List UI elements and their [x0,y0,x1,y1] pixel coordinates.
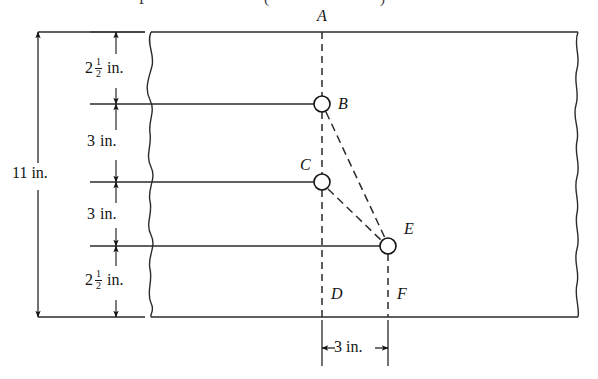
figure-canvas: P ( ) [0,0,598,379]
horizontal-dimension-label: 3 in. [334,339,362,355]
dimension-unit-seg-1: in. [107,60,123,76]
dimension-whole-seg-1: 2 [85,60,93,76]
point-label-e: E [404,221,414,237]
point-label-d: D [331,286,343,302]
plate-outline [147,32,578,317]
dimension-fraction-seg-4: 1 2 [95,269,102,291]
members [326,112,385,241]
dimension-label-seg-3: 3 in. [87,206,116,222]
fraction-denominator-seg-1: 2 [95,69,102,79]
member-b-e [326,112,385,238]
dimension-unit-seg-3: in. [100,206,116,222]
dimension-unit-seg-2: in. [100,133,116,149]
right-break-line [575,32,579,317]
pin-circle-b [314,96,330,112]
fraction-numerator-seg-1: 1 [95,57,102,67]
fraction-denominator-seg-4: 2 [95,281,102,291]
dimension-fraction-seg-1: 1 2 [95,57,102,79]
dimension-whole-seg-2: 3 [87,133,95,149]
point-label-b: B [338,96,348,112]
dimension-unit-seg-4: in. [107,272,123,288]
dimension-label-seg-4: 2 1 2 in. [85,269,123,291]
point-label-a: A [317,8,327,24]
fraction-numerator-seg-4: 1 [95,269,102,279]
point-label-f: F [397,286,407,302]
left-break-line [147,32,153,317]
dimension-whole-seg-3: 3 [87,206,95,222]
dimension-whole-seg-4: 2 [85,272,93,288]
dimension-label-seg-2: 3 in. [87,133,116,149]
overall-dimension-label: 11 in. [12,165,48,181]
pin-circle-c [314,174,330,190]
member-c-e [328,189,382,241]
pin-circle-e [380,238,396,254]
dimension-label-seg-1: 2 1 2 in. [85,57,123,79]
point-label-c: C [300,157,311,173]
